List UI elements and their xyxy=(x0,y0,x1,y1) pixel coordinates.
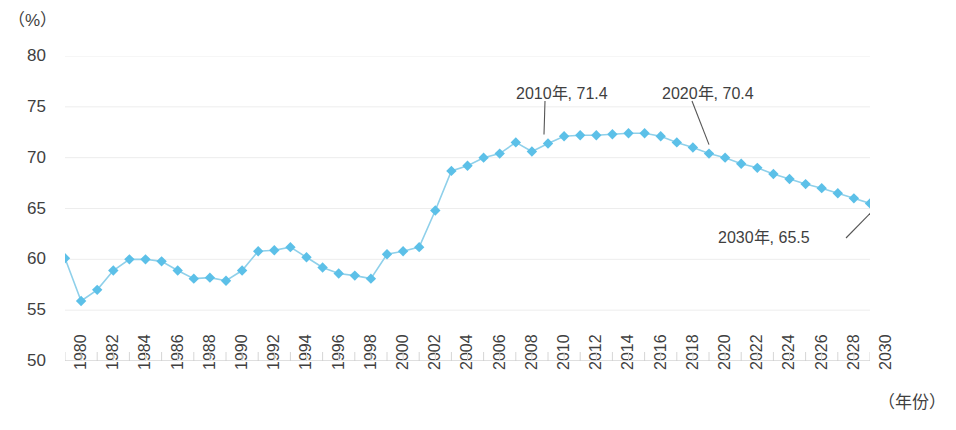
data-point-marker xyxy=(656,131,666,141)
data-point-marker xyxy=(833,188,843,198)
data-point-marker xyxy=(221,275,231,285)
data-point-marker xyxy=(173,265,183,275)
data-point-marker xyxy=(156,256,166,266)
data-point-marker xyxy=(511,137,521,147)
data-point-marker xyxy=(607,129,617,139)
annotation-leader-line xyxy=(544,101,545,134)
data-point-marker xyxy=(800,179,810,189)
y-tick-label: 80 xyxy=(0,47,46,64)
data-point-marker xyxy=(366,273,376,283)
data-point-marker xyxy=(398,246,408,256)
data-point-marker xyxy=(350,270,360,280)
data-point-marker xyxy=(672,137,682,147)
data-point-marker xyxy=(478,152,488,162)
data-point-marker xyxy=(462,161,472,171)
data-point-marker xyxy=(382,249,392,259)
annotation-leader-line xyxy=(846,211,870,238)
data-point-marker xyxy=(752,163,762,173)
data-point-marker xyxy=(269,245,279,255)
data-point-marker xyxy=(720,152,730,162)
data-point-marker xyxy=(140,254,150,264)
data-point-marker xyxy=(575,130,585,140)
data-point-marker xyxy=(414,242,424,252)
data-point-marker xyxy=(430,205,440,215)
data-point-marker xyxy=(736,159,746,169)
data-point-marker xyxy=(205,272,215,282)
data-point-markers xyxy=(65,128,870,306)
data-point-marker xyxy=(76,296,86,306)
data-point-marker xyxy=(849,193,859,203)
data-point-marker xyxy=(639,128,649,138)
data-point-marker xyxy=(189,273,199,283)
data-point-marker xyxy=(124,254,134,264)
x-axis-ticks xyxy=(65,352,870,361)
data-point-marker xyxy=(317,262,327,272)
chart-container: （%） （年份） 50556065707580 1980198219841986… xyxy=(0,0,956,430)
x-axis-title: （年份） xyxy=(878,388,946,413)
data-point-marker xyxy=(334,268,344,278)
y-tick-label: 60 xyxy=(0,250,46,267)
gridlines xyxy=(65,56,870,361)
data-point-marker xyxy=(65,253,70,263)
data-point-marker xyxy=(559,131,569,141)
y-axis-unit-label: （%） xyxy=(8,6,57,31)
data-point-marker xyxy=(623,128,633,138)
y-tick-label: 50 xyxy=(0,352,46,369)
data-point-marker xyxy=(543,138,553,148)
annotation-leader-lines xyxy=(544,101,870,238)
data-point-marker xyxy=(768,169,778,179)
data-point-marker xyxy=(784,174,794,184)
data-point-marker xyxy=(285,242,295,252)
data-point-marker xyxy=(446,166,456,176)
data-point-marker xyxy=(527,146,537,156)
data-point-marker xyxy=(688,142,698,152)
data-point-marker xyxy=(817,183,827,193)
x-tick-label: 2030 xyxy=(878,334,894,370)
line-chart-svg xyxy=(65,56,870,361)
data-point-marker xyxy=(301,252,311,262)
data-point-marker xyxy=(865,198,870,208)
y-tick-label: 75 xyxy=(0,98,46,115)
data-line xyxy=(65,133,870,301)
data-point-marker xyxy=(591,130,601,140)
plot-area xyxy=(65,56,870,361)
y-tick-label: 55 xyxy=(0,301,46,318)
annotation-leader-line xyxy=(692,101,709,145)
y-tick-label: 70 xyxy=(0,149,46,166)
y-tick-label: 65 xyxy=(0,200,46,217)
